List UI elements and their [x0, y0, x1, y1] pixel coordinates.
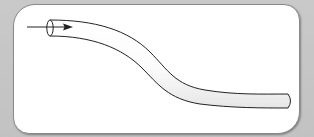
tube-opening	[47, 20, 53, 36]
tube-body	[50, 20, 290, 108]
pipe-diagram	[0, 0, 314, 137]
